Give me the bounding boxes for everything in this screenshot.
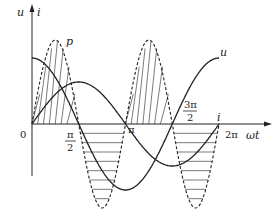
curve-label-i: i — [217, 111, 221, 124]
x-axis-arrow-icon — [264, 122, 272, 127]
waveform-plot: u i ωt 0 π 2 π 3π 2 2π u i p — [0, 0, 276, 218]
power-waveform-diagram: u i ωt 0 π 2 π 3π 2 2π u i p — [0, 0, 276, 218]
curve-label-u: u — [220, 46, 227, 59]
tick-3pi-over-2-num: 3π — [184, 99, 197, 110]
tick-pi: π — [128, 124, 135, 135]
tick-pi-over-2-den: 2 — [67, 142, 73, 153]
y-label-u: u — [17, 6, 24, 19]
curve-label-p: p — [66, 35, 73, 48]
x-label-wt: ωt — [246, 129, 260, 142]
tick-2pi: 2π — [225, 129, 238, 140]
tick-pi-over-2-num: π — [67, 129, 74, 140]
y-label-i: i — [37, 6, 41, 19]
tick-3pi-over-2-den: 2 — [187, 112, 193, 123]
origin-label: 0 — [20, 129, 26, 140]
y-axis-arrow-icon — [30, 4, 35, 12]
